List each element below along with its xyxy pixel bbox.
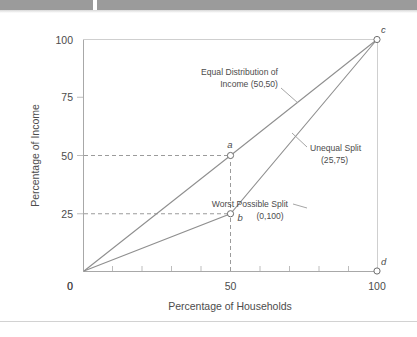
point-marker-d [374, 268, 380, 274]
y-tick-label-25: 25 [61, 208, 73, 220]
annotation-unequal-split-line2: (25,75) [321, 155, 348, 165]
point-label-c: c [381, 24, 386, 35]
x-tick-label-100: 100 [368, 280, 386, 292]
annotation-equal-distribution-line2: Income (50,50) [220, 79, 278, 89]
y-tick-label-50: 50 [61, 150, 73, 162]
annotation-unequal-split-leader [292, 133, 307, 147]
annotation-worst-possible-split: Worst Possible Split (0,100) [212, 199, 307, 221]
annotation-equal-distribution-leader [281, 88, 298, 103]
annotation-equal-distribution-line1: Equal Distribution of [201, 67, 279, 77]
figure-canvas: a b c d 100 75 50 25 0 0 50 100 Percenta… [0, 0, 417, 337]
annotation-unequal-split: Unequal Split (25,75) [292, 133, 362, 165]
point-label-d: d [381, 256, 387, 267]
point-marker-c [374, 36, 380, 42]
point-label-b: b [238, 212, 243, 223]
y-tick-label-75: 75 [61, 91, 73, 103]
x-tick-label-50: 50 [225, 280, 237, 292]
x-tick-label-0: 0 [67, 280, 73, 292]
annotation-equal-distribution: Equal Distribution of Income (50,50) [201, 67, 298, 103]
y-axis-ticks [77, 97, 83, 214]
annotation-worst-possible-split-line1: Worst Possible Split [212, 199, 289, 209]
y-tick-label-100: 100 [55, 34, 73, 46]
x-axis-title: Percentage of Households [168, 300, 292, 312]
point-label-a: a [227, 139, 232, 150]
point-marker-a [227, 152, 233, 158]
annotation-worst-possible-split-line2: (0,100) [256, 211, 283, 221]
annotation-unequal-split-line1: Unequal Split [310, 143, 362, 153]
annotation-worst-possible-split-leader [293, 204, 307, 208]
point-marker-b [227, 211, 233, 217]
lorenz-curve-chart: a b c d 100 75 50 25 0 0 50 100 Percenta… [0, 0, 417, 337]
y-axis-title: Percentage of Income [29, 104, 41, 207]
